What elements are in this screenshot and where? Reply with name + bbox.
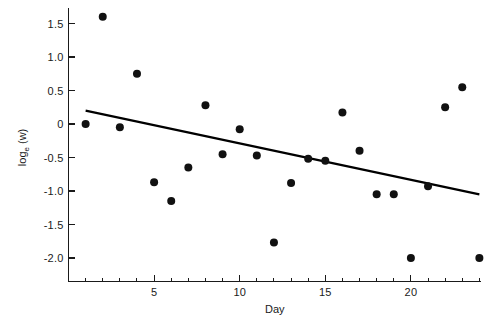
data-point [356, 147, 364, 155]
plot-canvas: 5101520 1.51.00.50-0.5-1.0-1.5-2.0 Day l… [0, 0, 494, 320]
y-tick-label: 0 [57, 118, 63, 130]
data-point [338, 109, 346, 117]
data-point [304, 155, 312, 163]
data-point [270, 239, 278, 247]
x-tick-label: 15 [319, 286, 332, 298]
y-axis-label-text: loge (w) [16, 129, 31, 166]
x-axis-title: Day [265, 303, 285, 315]
x-axis-label-text: Day [265, 303, 285, 315]
data-point [236, 125, 244, 133]
data-point [287, 179, 295, 187]
data-point [150, 178, 158, 186]
data-point [424, 182, 432, 190]
data-point [475, 254, 483, 262]
data-point [201, 101, 209, 109]
y-axis-title: loge (w) [16, 129, 31, 166]
y-tick-label: 1.0 [48, 51, 64, 63]
x-axis-ticks [86, 275, 480, 282]
y-axis-tick-labels: 1.51.00.50-0.5-1.0-1.5-2.0 [44, 18, 64, 265]
y-tick-label: 0.5 [48, 85, 64, 97]
y-axis-ticks [69, 24, 75, 259]
y-tick-label: -2.0 [44, 252, 64, 264]
regression-line [86, 111, 480, 195]
data-point [133, 70, 141, 78]
x-tick-label: 5 [151, 286, 157, 298]
x-tick-label: 20 [405, 286, 418, 298]
x-axis-tick-labels: 5101520 [151, 286, 417, 298]
y-tick-label: 1.5 [48, 18, 64, 30]
trend-line [86, 111, 480, 195]
data-point [219, 150, 227, 158]
data-points [82, 13, 484, 262]
x-tick-label: 10 [233, 286, 246, 298]
data-point [441, 103, 449, 111]
data-point [458, 83, 466, 91]
data-point [82, 120, 90, 128]
data-point [167, 197, 175, 205]
y-tick-label: -1.5 [44, 219, 64, 231]
scatter-plot-figure: 5101520 1.51.00.50-0.5-1.0-1.5-2.0 Day l… [0, 0, 494, 320]
data-point [390, 190, 398, 198]
data-point [373, 190, 381, 198]
y-tick-label: -0.5 [44, 152, 64, 164]
data-point [99, 13, 107, 21]
data-point [321, 157, 329, 165]
data-point [253, 151, 261, 159]
y-tick-label: -1.0 [44, 185, 64, 197]
data-point [184, 164, 192, 172]
data-point [407, 254, 415, 262]
data-point [116, 123, 124, 131]
